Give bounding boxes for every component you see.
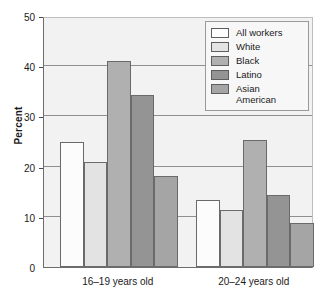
gridline-30 bbox=[44, 115, 312, 116]
legend-item-black: Black bbox=[211, 55, 304, 66]
y-axis-title: Percent bbox=[13, 86, 24, 166]
legend-label: All workers bbox=[236, 27, 282, 38]
y-tick-label-40: 40 bbox=[0, 62, 35, 73]
chart-legend: All workersWhiteBlackLatinoAsian America… bbox=[205, 21, 309, 111]
y-tick-label-20: 20 bbox=[0, 162, 35, 173]
y-tick-label-30: 30 bbox=[0, 112, 35, 123]
bar-asian-american-group-1 bbox=[154, 176, 178, 267]
legend-swatch-icon-3 bbox=[211, 56, 229, 66]
legend-swatch-icon-4 bbox=[211, 70, 229, 80]
bar-all-workers-group-2 bbox=[196, 200, 220, 267]
legend-item-white: White bbox=[211, 41, 304, 52]
bar-latino-group-1 bbox=[131, 95, 155, 267]
legend-item-asian-american: Asian American bbox=[211, 83, 304, 105]
y-tick-label-0: 0 bbox=[0, 263, 35, 274]
bar-white-group-2 bbox=[220, 210, 244, 267]
legend-swatch-icon-5 bbox=[211, 84, 229, 94]
legend-swatch-icon-2 bbox=[211, 42, 229, 52]
bar-chart-figure: Percent 01020304050 16–19 years old20–24… bbox=[0, 0, 321, 296]
bar-black-group-1 bbox=[107, 61, 131, 267]
bar-all-workers-group-1 bbox=[60, 142, 84, 268]
legend-label: White bbox=[236, 41, 260, 52]
x-group-label-2: 20–24 years old bbox=[195, 276, 313, 287]
legend-label: Black bbox=[236, 55, 259, 66]
y-tick-label-50: 50 bbox=[0, 12, 35, 23]
bar-latino-group-2 bbox=[267, 195, 291, 267]
legend-item-latino: Latino bbox=[211, 69, 304, 80]
bar-asian-american-group-2 bbox=[290, 223, 314, 267]
legend-label: Asian American bbox=[236, 83, 276, 105]
y-tick-label-10: 10 bbox=[0, 212, 35, 223]
legend-label: Latino bbox=[236, 69, 262, 80]
bar-white-group-1 bbox=[84, 162, 108, 267]
legend-swatch-icon-1 bbox=[211, 28, 229, 38]
bar-black-group-2 bbox=[243, 140, 267, 268]
legend-item-all-workers: All workers bbox=[211, 27, 304, 38]
x-group-label-1: 16–19 years old bbox=[59, 276, 177, 287]
